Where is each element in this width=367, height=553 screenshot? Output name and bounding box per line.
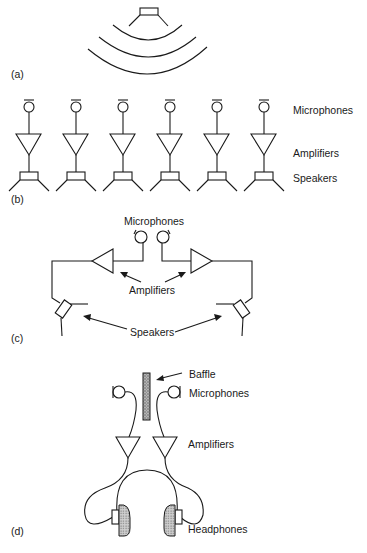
panel-label-b: (b)	[11, 193, 24, 205]
speaker-icon	[150, 172, 190, 191]
microphone-icon	[134, 230, 147, 243]
microphone-icon	[24, 100, 34, 112]
label-headphones: Headphones	[188, 523, 248, 535]
arrow-icon	[175, 314, 222, 332]
amplifier-triangle-icon	[204, 134, 229, 155]
microphone-icon	[118, 100, 128, 112]
channel-2	[56, 100, 96, 191]
microphone-icon	[165, 100, 175, 112]
label-microphones-b: Microphones	[293, 104, 353, 116]
label-microphones-c: Microphones	[124, 215, 184, 227]
channel-4	[150, 100, 190, 191]
headphones-icon	[112, 470, 182, 536]
microphone-icon	[259, 100, 269, 112]
amplifier-triangle-icon	[110, 134, 135, 155]
speaker-icon	[9, 172, 49, 191]
amplifier-triangle-icon	[191, 249, 212, 273]
amplifier-triangle-icon	[16, 134, 41, 155]
arrow-icon	[165, 272, 186, 282]
speaker-icon	[197, 172, 237, 191]
amplifier-triangle-icon	[157, 134, 182, 155]
arrow-icon	[83, 314, 127, 329]
baffle-icon	[143, 373, 150, 420]
panel-label-a: (a)	[11, 68, 24, 80]
amplifier-triangle-icon	[153, 437, 177, 458]
channel-6	[244, 100, 284, 191]
panel-label-c: (c)	[11, 332, 23, 344]
sound-wave-icon	[88, 25, 207, 74]
arrow-icon	[156, 373, 182, 381]
panel-c: Microphones	[11, 215, 252, 344]
amplifier-triangle-icon	[92, 249, 113, 273]
label-speakers-b: Speakers	[293, 172, 337, 184]
label-baffle: Baffle	[189, 368, 216, 380]
speaker-icon	[129, 8, 168, 26]
speaker-icon	[244, 172, 284, 191]
microphone-icon	[168, 386, 180, 398]
label-amplifiers-b: Amplifiers	[293, 147, 339, 159]
microphone-icon	[157, 230, 170, 243]
stereo-reproduction-diagram: (a)	[0, 0, 367, 553]
amplifier-triangle-icon	[63, 134, 88, 155]
label-microphones-d: Microphones	[189, 387, 249, 399]
microphone-icon	[212, 100, 222, 112]
panel-d: Baffle Microphones Amplifiers	[11, 368, 249, 537]
microphone-icon	[71, 100, 81, 112]
panel-b: Microphones Amplifiers Speakers (b)	[9, 100, 353, 205]
label-amplifiers-d: Amplifiers	[188, 438, 234, 450]
speaker-icon	[56, 172, 96, 191]
speaker-icon	[103, 172, 143, 191]
panel-label-d: (d)	[11, 525, 24, 537]
amplifier-triangle-icon	[251, 134, 276, 155]
microphone-icon	[113, 386, 125, 398]
speaker-icon	[55, 300, 88, 336]
channel-3	[103, 100, 143, 191]
arrow-icon	[120, 272, 141, 282]
amplifier-triangle-icon	[116, 437, 140, 458]
label-speakers-c: Speakers	[130, 326, 174, 338]
label-amplifiers-c: Amplifiers	[129, 284, 175, 296]
channel-1	[9, 100, 49, 191]
speaker-icon	[216, 300, 250, 336]
panel-a: (a)	[11, 8, 207, 80]
channel-5	[197, 100, 237, 191]
